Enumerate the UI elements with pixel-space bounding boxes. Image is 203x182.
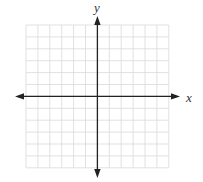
y-axis-down-arrow-icon (94, 169, 100, 178)
coordinate-plane (0, 0, 203, 182)
x-axis-right-arrow-icon (171, 93, 180, 99)
x-axis-label: x (186, 91, 192, 104)
axes (15, 16, 180, 178)
x-axis-left-arrow-icon (15, 93, 24, 99)
y-axis-up-arrow-icon (94, 16, 100, 25)
y-axis-label: y (94, 1, 100, 14)
